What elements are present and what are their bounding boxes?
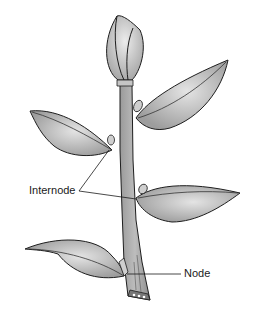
node-label: Node (184, 267, 210, 279)
leaf-upper-right (136, 60, 228, 130)
leaf-middle-right (136, 186, 240, 222)
internode-leader-upper (79, 150, 109, 191)
leaf-upper-left (30, 111, 112, 156)
leaf-lower-left (25, 240, 124, 278)
terminal-bud (107, 16, 144, 80)
internode-label: Internode (29, 184, 75, 196)
plant-stem-illustration (0, 0, 254, 314)
